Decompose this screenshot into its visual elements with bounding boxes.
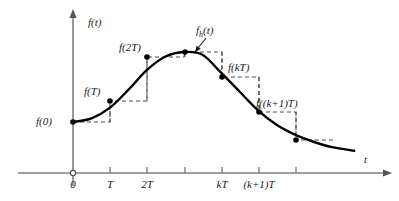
x-tick-label: 2T: [117, 179, 177, 190]
sample-point-dot: [219, 74, 225, 80]
sample-point-dot: [256, 109, 262, 115]
fh-annotation-arrow: [195, 38, 206, 52]
x-tick-label: (k+1)T: [229, 179, 289, 190]
sample-value-label: f(kT): [228, 62, 249, 73]
sample-point-dots: [70, 49, 299, 143]
sample-value-label: f((k+1)T): [256, 98, 298, 109]
sample-point-dot: [70, 119, 76, 125]
sample-point-dot: [182, 49, 188, 55]
sample-value-label: f(T): [84, 86, 101, 97]
zero-order-hold-staircase: [73, 52, 333, 140]
hold-signal-label: fh(t): [196, 25, 213, 39]
sample-and-hold-figure: f(t) t 0T2TkT(k+1)T f(0)f(T)f(2T)f(kT)f(…: [0, 0, 399, 201]
x-axis-arrowhead: [383, 169, 392, 176]
sample-value-label: f(0): [36, 116, 52, 127]
origin-marker: [70, 170, 75, 175]
hold-staircase-group: [73, 52, 333, 140]
x-axis-label: t: [364, 154, 367, 165]
sample-point-dot: [293, 137, 299, 143]
sample-droplines: [110, 52, 296, 140]
sample-point-dot: [107, 98, 113, 104]
y-axis-arrowhead: [69, 9, 76, 18]
sample-value-label: f(2T): [119, 42, 141, 53]
sample-point-dot: [144, 54, 150, 60]
y-axis-label: f(t): [88, 17, 101, 28]
x-axis-ticks: [110, 167, 296, 173]
